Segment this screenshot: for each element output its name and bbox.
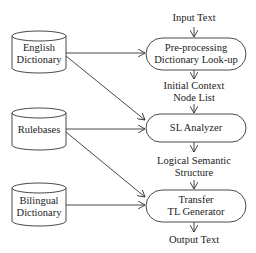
bilingual-dictionary-line2: Dictionary xyxy=(12,207,66,219)
edge-rulebases-to-transfer xyxy=(66,132,145,197)
semantic-structure-label: Logical Semantic Structure xyxy=(144,155,244,179)
english-dictionary-line1: English xyxy=(12,42,66,54)
sl-analyzer-label: SL Analyzer xyxy=(146,122,246,134)
preprocessing-line1: Pre-processing xyxy=(146,42,246,54)
rulebases-label: Rulebases xyxy=(12,124,66,136)
bilingual-dictionary-line1: Bilingual xyxy=(12,195,66,207)
edge-english-to-analyzer xyxy=(66,56,145,120)
input-text-label: Input Text xyxy=(144,12,244,24)
node-list-label: Initial Context Node List xyxy=(144,80,244,104)
english-dictionary-label: English Dictionary xyxy=(12,42,66,66)
preprocessing-label: Pre-processing Dictionary Look-up xyxy=(146,42,246,66)
rulebases-line1: Rulebases xyxy=(12,124,66,136)
transfer-label: Transfer TL Generator xyxy=(146,194,246,218)
transfer-line2: TL Generator xyxy=(146,206,246,218)
english-dictionary-line2: Dictionary xyxy=(12,54,66,66)
semantic-structure-line1: Logical Semantic xyxy=(144,155,244,167)
bilingual-dictionary-label: Bilingual Dictionary xyxy=(12,195,66,219)
preprocessing-line2: Dictionary Look-up xyxy=(146,54,246,66)
node-list-line2: Node List xyxy=(144,92,244,104)
sl-analyzer-line1: SL Analyzer xyxy=(146,122,246,134)
transfer-line1: Transfer xyxy=(146,194,246,206)
output-text-label: Output Text xyxy=(144,234,244,246)
node-list-line1: Initial Context xyxy=(144,80,244,92)
semantic-structure-line2: Structure xyxy=(144,167,244,179)
